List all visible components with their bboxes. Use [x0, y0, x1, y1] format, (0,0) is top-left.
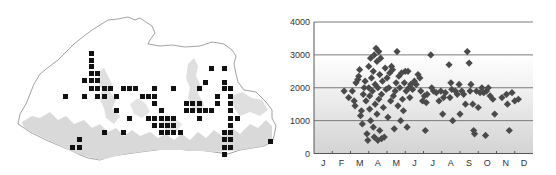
occupied-cell [152, 116, 157, 121]
occupied-cell [228, 108, 233, 113]
occupied-cell [165, 130, 170, 135]
x-tick-label: J [430, 158, 435, 168]
occupied-cell [190, 101, 195, 106]
occupied-cell [108, 86, 113, 91]
occupied-cell [70, 145, 75, 150]
occupied-cell [184, 101, 189, 106]
y-tick-label: 0 [305, 149, 310, 159]
occupied-cell [102, 130, 107, 135]
occupied-cell [190, 108, 195, 113]
x-tick-label: A [375, 158, 381, 168]
occupied-cell [228, 86, 233, 91]
x-tick-label: F [339, 158, 345, 168]
occupied-cell [95, 94, 100, 99]
occupied-cell [152, 86, 157, 91]
occupied-cell [89, 51, 94, 56]
occupied-cell [228, 116, 233, 121]
occupied-cell [133, 86, 138, 91]
x-tick-label: O [484, 158, 491, 168]
occupied-cell [159, 123, 164, 128]
x-tick-label: M [356, 158, 364, 168]
occupied-cell [114, 108, 119, 113]
occupied-cell [178, 130, 183, 135]
occupied-cell [152, 94, 157, 99]
occupied-cell [89, 71, 94, 76]
occupied-cell [222, 152, 227, 157]
occupied-cell [165, 116, 170, 121]
y-tick-label: 4000 [290, 17, 310, 27]
y-tick-label: 2000 [290, 83, 310, 93]
occupied-cell [159, 130, 164, 135]
occupied-cell [197, 101, 202, 106]
occupied-cell [102, 94, 107, 99]
occupied-cell [228, 123, 233, 128]
x-tick-label: A [448, 158, 454, 168]
occupied-cell [165, 123, 170, 128]
occupied-cell [89, 86, 94, 91]
occupied-cell [159, 116, 164, 121]
scatter-canvas: 01000200030004000 JFMAMJJASOND [270, 0, 556, 175]
occupied-cell [127, 86, 132, 91]
occupied-cell [203, 80, 208, 85]
occupied-cell [215, 101, 220, 106]
occupied-cell [228, 137, 233, 142]
occupied-cell [228, 130, 233, 135]
y-tick-label: 1000 [290, 116, 310, 126]
occupied-cell [95, 71, 100, 76]
x-tick-label: J [321, 158, 326, 168]
occupied-cell [222, 137, 227, 142]
y-axis-labels: 01000200030004000 [290, 17, 310, 159]
occupied-cell [222, 66, 227, 71]
occupied-cell [222, 80, 227, 85]
x-tick-label: D [521, 158, 528, 168]
occupied-cell [63, 94, 68, 99]
occupied-cell [95, 86, 100, 91]
occupied-cell [209, 108, 214, 113]
occupied-cell [114, 94, 119, 99]
occupied-cell [209, 66, 214, 71]
occupied-cell [89, 78, 94, 83]
occupied-cell [121, 86, 126, 91]
occupied-cell [95, 78, 100, 83]
map-canvas [0, 0, 290, 175]
occupied-cell [127, 116, 132, 121]
occupied-cell [235, 116, 240, 121]
occupied-cell [146, 116, 151, 121]
occupied-cell [146, 94, 151, 99]
x-tick-label: S [466, 158, 472, 168]
occupied-cell [197, 86, 202, 91]
occupied-cell [77, 137, 82, 142]
occupied-cell [215, 94, 220, 99]
occupied-cell [140, 94, 145, 99]
occupied-cell [197, 108, 202, 113]
occupied-cell [197, 116, 202, 121]
x-tick-label: M [392, 158, 400, 168]
occupied-cell [184, 108, 189, 113]
occupied-cell [228, 101, 233, 106]
occupied-cell [171, 86, 176, 91]
occupied-cell [152, 101, 157, 106]
occupied-cell [222, 86, 227, 91]
occupied-cell [159, 108, 164, 113]
occupied-cell [228, 145, 233, 150]
occupied-cell [121, 130, 126, 135]
occupied-cell [152, 123, 157, 128]
occupied-cell [171, 116, 176, 121]
occupied-cell [171, 123, 176, 128]
distribution-map [0, 0, 290, 175]
occupied-cell [222, 145, 227, 150]
occupied-cell [77, 145, 82, 150]
x-tick-label: N [502, 158, 509, 168]
occupied-cell [222, 130, 227, 135]
occupied-cell [89, 58, 94, 63]
occupied-cell [102, 86, 107, 91]
occupied-cell [171, 130, 176, 135]
y-tick-label: 3000 [290, 50, 310, 60]
occupied-cell [82, 94, 87, 99]
x-tick-label: J [412, 158, 417, 168]
elevation-by-month-scatter: 01000200030004000 JFMAMJJASOND [270, 0, 556, 175]
occupied-cell [82, 78, 87, 83]
occupied-cell [228, 94, 233, 99]
occupied-cell [203, 108, 208, 113]
occupied-cell [89, 64, 94, 69]
